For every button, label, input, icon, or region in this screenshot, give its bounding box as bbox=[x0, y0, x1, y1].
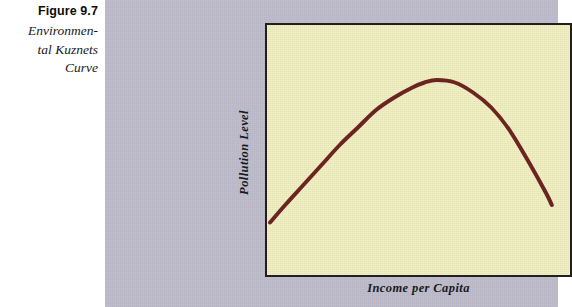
figure-number-label: Figure 9.7 bbox=[0, 4, 98, 19]
kuznets-curve-line bbox=[270, 80, 552, 223]
figure-title-line-3: Curve bbox=[0, 59, 98, 78]
figure-title: Environmen- tal Kuznets Curve bbox=[0, 22, 98, 78]
y-axis-title-label: Pollution Level bbox=[237, 110, 252, 195]
figure-title-line-2: tal Kuznets bbox=[0, 41, 98, 60]
x-axis-title: Income per Capita bbox=[265, 281, 572, 296]
figure-caption: Figure 9.7 Environmen- tal Kuznets Curve bbox=[0, 4, 98, 78]
plot-area bbox=[265, 23, 572, 277]
kuznets-curve-svg bbox=[267, 25, 570, 275]
figure-panel: Pollution Level Income per Capita bbox=[105, 0, 558, 307]
y-axis-title: Pollution Level bbox=[231, 92, 257, 212]
figure-root: Figure 9.7 Environmen- tal Kuznets Curve… bbox=[0, 0, 572, 307]
figure-title-line-1: Environmen- bbox=[0, 22, 98, 41]
